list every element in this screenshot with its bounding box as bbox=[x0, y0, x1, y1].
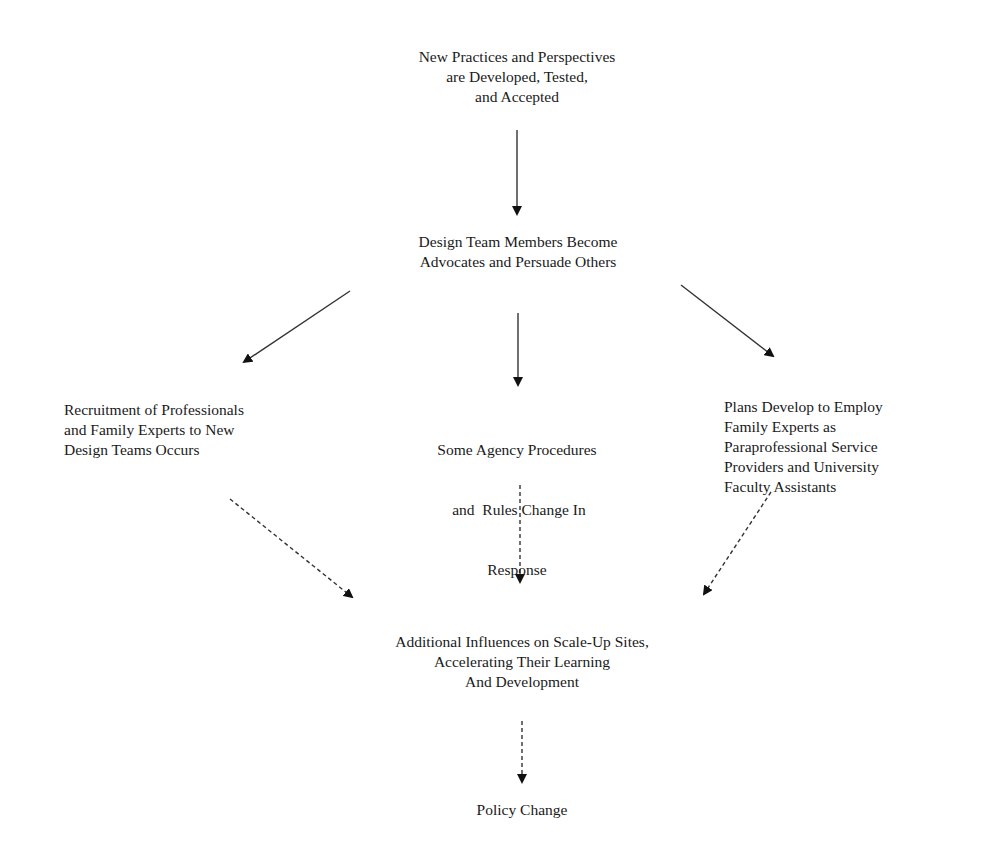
node-additional-influences: Additional Influences on Scale-Up Sites,… bbox=[395, 632, 649, 692]
node-text-line: Advocates and Persuade Others bbox=[419, 252, 618, 272]
node-text-line: and Rules Change In bbox=[437, 500, 596, 520]
arrow-advocates-to-plans-develop bbox=[681, 285, 773, 356]
node-text-line: Policy Change bbox=[477, 800, 568, 820]
node-agency-procedures: Some Agency Procedures and Rules Change … bbox=[437, 400, 596, 620]
node-advocates: Design Team Members Become Advocates and… bbox=[419, 232, 618, 272]
flowchart-diagram: New Practices and Perspectives are Devel… bbox=[0, 0, 990, 856]
arrow-advocates-to-recruitment bbox=[244, 291, 350, 362]
node-new-practices: New Practices and Perspectives are Devel… bbox=[419, 47, 616, 107]
node-text-line: and Family Experts to New bbox=[64, 420, 244, 440]
node-policy-change: Policy Change bbox=[477, 800, 568, 820]
node-text-line: Recruitment of Professionals bbox=[64, 400, 244, 420]
dashed-arrow-plans-develop-to-additional-influences bbox=[704, 492, 771, 594]
node-recruitment: Recruitment of Professionals and Family … bbox=[64, 400, 244, 460]
node-text-line: Family Experts as bbox=[724, 417, 883, 437]
node-text-line: are Developed, Tested, bbox=[419, 67, 616, 87]
node-text-line: Design Teams Occurs bbox=[64, 440, 244, 460]
node-text-line: Response bbox=[437, 560, 596, 580]
node-text-line: Plans Develop to Employ bbox=[724, 397, 883, 417]
node-text-line: Providers and University bbox=[724, 457, 883, 477]
node-text-line: Some Agency Procedures bbox=[437, 440, 596, 460]
node-text-line: Paraprofessional Service bbox=[724, 437, 883, 457]
dashed-arrow-recruitment-to-additional-influences bbox=[230, 499, 352, 597]
node-text-line: Design Team Members Become bbox=[419, 232, 618, 252]
node-text-line: Accelerating Their Learning bbox=[395, 652, 649, 672]
node-text-line: Additional Influences on Scale-Up Sites, bbox=[395, 632, 649, 652]
node-text-line: And Development bbox=[395, 672, 649, 692]
node-plans-develop: Plans Develop to Employ Family Experts a… bbox=[724, 397, 883, 497]
node-text-line: New Practices and Perspectives bbox=[419, 47, 616, 67]
node-text-line: Faculty Assistants bbox=[724, 477, 883, 497]
node-text-line: and Accepted bbox=[419, 87, 616, 107]
